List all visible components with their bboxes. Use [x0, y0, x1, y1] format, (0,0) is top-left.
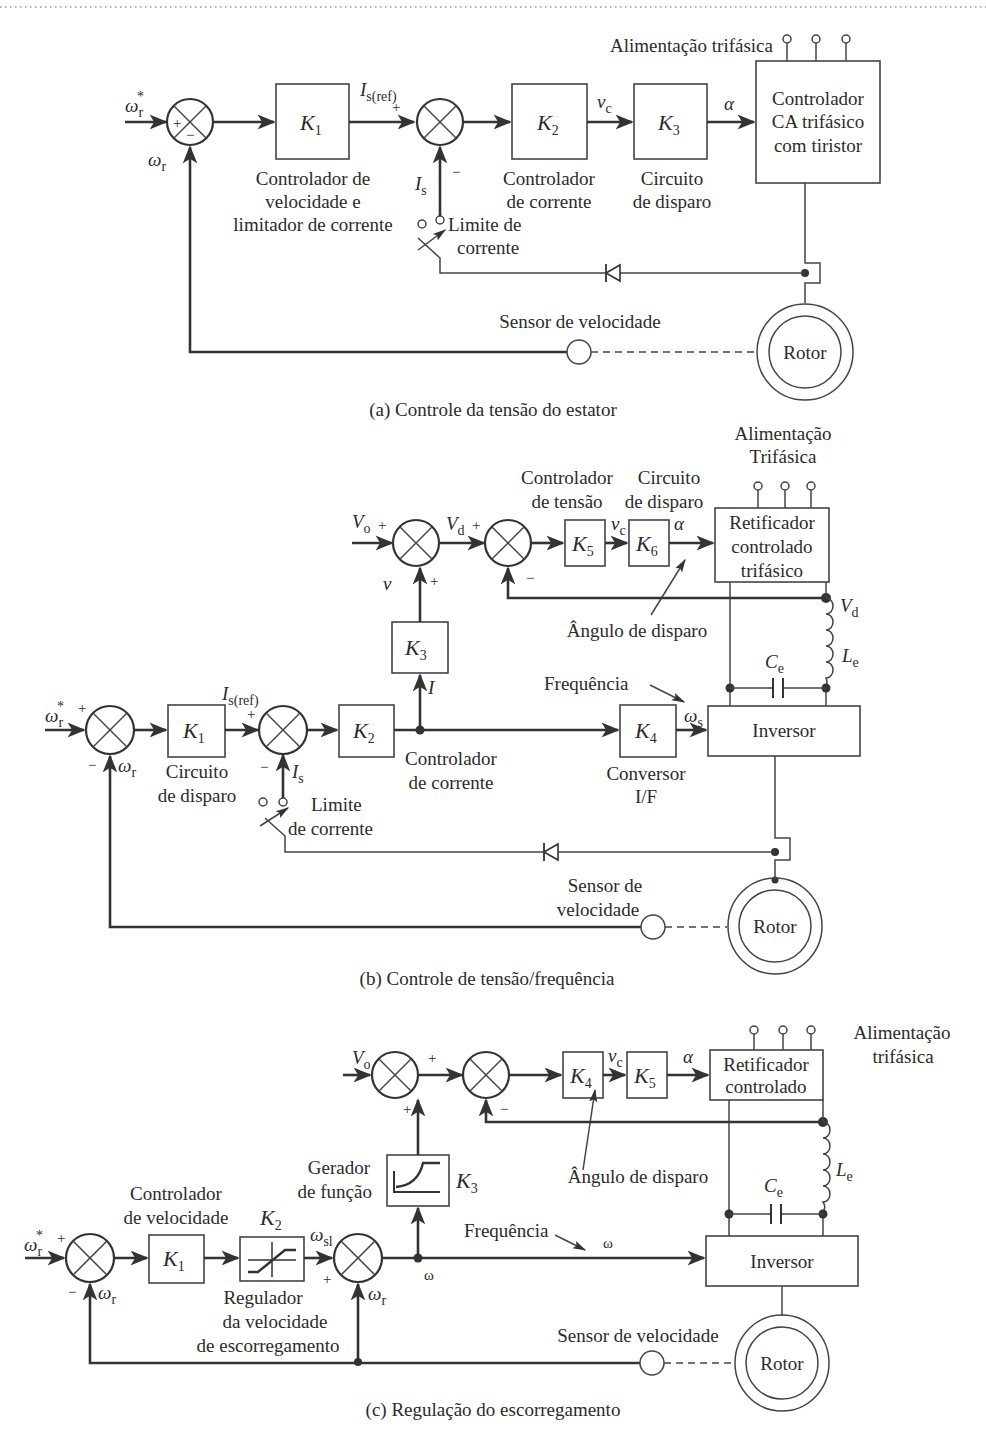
- current-limit-label-1: Limite: [311, 794, 362, 815]
- supply-label-1: Alimentação: [734, 423, 831, 444]
- panel-b-caption: (b) Controle de tensão/frequência: [360, 968, 615, 990]
- k3-caption-2: de disparo: [633, 191, 712, 212]
- summing-junction-a1: + −: [167, 99, 213, 145]
- summing-junction-b3: [86, 706, 134, 754]
- vd-feedback-label: Vd: [840, 595, 859, 620]
- vo-label: Vo: [352, 511, 371, 536]
- k2-caption-1: Regulador: [223, 1287, 303, 1308]
- summing-junction-c1: [372, 1052, 418, 1098]
- panel-c-caption: (c) Regulação do escorregamento: [366, 1399, 621, 1421]
- input-ref-label: ωr*: [24, 1228, 43, 1259]
- rectifier-line-2: controlado: [731, 536, 812, 557]
- rotor-label: Rotor: [783, 342, 827, 363]
- supply-label-2: trifásica: [872, 1046, 934, 1067]
- motor-control-block-diagrams: ωr* + − ωr K1 Controlador de velocidade …: [0, 0, 986, 1440]
- v-label: v: [383, 573, 392, 594]
- k4-caption-2: I/F: [635, 786, 657, 807]
- minus-sign: −: [500, 1101, 508, 1117]
- controller-line-1: Controlador: [772, 88, 864, 109]
- speed-sensor-icon: [641, 915, 665, 939]
- feedback-label-2: ωr: [368, 1283, 386, 1308]
- three-phase-terminals: [783, 35, 850, 61]
- input-ref-label: ωr*: [125, 89, 144, 120]
- plus-sign: +: [247, 706, 255, 722]
- current-limit-switch: [418, 216, 445, 250]
- k4-caption-1: Conversor: [606, 763, 686, 784]
- summing-junction-b4: [259, 706, 307, 754]
- inductor-icon: [823, 1122, 830, 1212]
- summing-junction-b1: [393, 520, 439, 566]
- three-phase-terminals: [750, 1026, 815, 1050]
- le-label: Le: [835, 1159, 853, 1184]
- current-limit-label-2: de corrente: [288, 818, 373, 839]
- k2-caption-2: da velocidade: [223, 1311, 328, 1332]
- summing-junction-c2: [463, 1052, 509, 1098]
- plus-sign: +: [173, 115, 181, 131]
- plus-sign: +: [392, 99, 400, 115]
- supply-label-2: Trifásica: [750, 446, 817, 467]
- function-gen-label-1: Gerador: [308, 1157, 371, 1178]
- k2-label: K2: [259, 1205, 282, 1233]
- alpha-label: α: [724, 93, 735, 114]
- wsl-label: ωsl: [310, 1224, 333, 1249]
- minus-sign: −: [526, 570, 534, 586]
- summing-junction-a2: [417, 99, 463, 145]
- minus-sign: −: [260, 759, 268, 775]
- k1-caption-1: Circuito: [166, 761, 228, 782]
- power-line: [775, 756, 790, 880]
- power-line: [805, 183, 820, 303]
- speed-controller-label-1: Controlador: [130, 1183, 222, 1204]
- k1-caption-2: velocidade e: [265, 191, 360, 212]
- vc-label: vc: [608, 1045, 623, 1070]
- rectifier-line-1: Retificador: [729, 512, 815, 533]
- summing-junction-c4: [334, 1234, 382, 1282]
- rectifier-line-2: controlado: [725, 1076, 806, 1097]
- plus-sign: +: [472, 517, 480, 533]
- feedback-label: ωr: [148, 149, 166, 174]
- plus-sign: +: [57, 1230, 65, 1246]
- vd-label: Vd: [446, 513, 465, 538]
- k2-caption-2: de corrente: [507, 191, 592, 212]
- capacitor-icon: [771, 1204, 781, 1224]
- diode-icon: [606, 264, 620, 282]
- frequency-label: Frequência: [464, 1220, 549, 1241]
- function-gen-label-2: de função: [298, 1181, 372, 1202]
- ce-label: Ce: [765, 651, 784, 676]
- controller-line-3: com tiristor: [774, 135, 863, 156]
- rotor-label: Rotor: [753, 916, 797, 937]
- vc-label: vc: [611, 513, 626, 538]
- i-label: I: [427, 677, 436, 698]
- frequency-label: Frequência: [544, 673, 629, 694]
- minus-sign: −: [68, 1284, 76, 1300]
- current-limit-label-2: corrente: [457, 237, 519, 258]
- minus-sign: −: [88, 757, 96, 773]
- is-label: Is: [291, 761, 304, 786]
- summing-junction-b2: [485, 520, 531, 566]
- rectifier-line-3: trifásico: [741, 560, 803, 581]
- k2-caption-1: Controlador: [503, 168, 595, 189]
- diode-icon: [544, 843, 558, 861]
- current-limit-label-1: Limite de: [448, 214, 521, 235]
- omega-label: ω: [424, 1267, 434, 1283]
- alpha-label: α: [683, 1046, 694, 1067]
- three-phase-terminals: [754, 482, 815, 508]
- plus-sign: +: [378, 517, 386, 533]
- firing-circuit-label-2: de disparo: [625, 491, 704, 512]
- k2-caption-2: de corrente: [409, 772, 494, 793]
- alpha-label: α: [674, 513, 685, 534]
- speed-sensor-label-2: velocidade: [557, 899, 639, 920]
- speed-controller-label-2: de velocidade: [124, 1207, 229, 1228]
- minus-sign: −: [452, 164, 460, 180]
- inverter-label: Inversor: [750, 1251, 814, 1272]
- rotor-label: Rotor: [760, 1353, 804, 1374]
- k1-caption-3: limitador de corrente: [233, 214, 392, 235]
- firing-angle-label: Ângulo de disparo: [568, 1166, 708, 1187]
- plus-sign: +: [430, 573, 438, 589]
- speed-feedback-line: [90, 1284, 640, 1363]
- speed-sensor-label: Sensor de velocidade: [557, 1325, 718, 1346]
- panel-c-slip-regulation: Alimentação trifásica Vo + + + − K4 vc K…: [24, 1022, 951, 1421]
- plus-sign: +: [428, 1050, 436, 1066]
- controller-line-2: CA trifásico: [772, 111, 864, 132]
- current-limit-switch: [259, 798, 288, 826]
- firing-angle-label: Ângulo de disparo: [567, 620, 707, 641]
